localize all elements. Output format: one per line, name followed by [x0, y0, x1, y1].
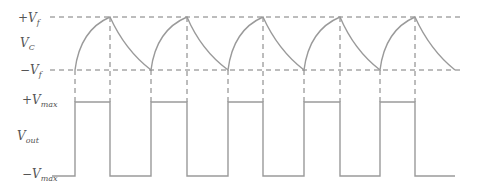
vout-top-level-label: +Vmax: [22, 93, 58, 109]
vc-axis-label: VC: [20, 36, 35, 52]
vc-bottom-level-label: −Vf: [20, 63, 44, 79]
vout-axis-label: Vout: [17, 129, 40, 145]
vc-top-level-label: +Vf: [18, 11, 42, 27]
vout-square-wave: [52, 102, 455, 176]
vout-bottom-level-label: −Vmax: [22, 167, 58, 183]
vc-waveform: [75, 17, 455, 70]
waveform-diagram: +Vf VC −Vf +Vmax Vout −Vmax: [0, 0, 480, 192]
